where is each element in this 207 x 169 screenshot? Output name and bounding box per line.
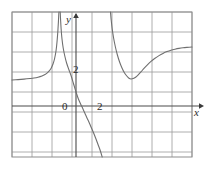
y-axis-label: y: [66, 14, 71, 25]
graph-screenshot: y x 2 0 2: [0, 0, 207, 169]
x-axis-label: x: [194, 107, 199, 118]
x-tick-label-2: 2: [97, 101, 103, 112]
y-tick-label-2: 2: [73, 64, 79, 75]
function-graph-figure: [0, 0, 207, 169]
x-axis-arrow-icon: [199, 103, 204, 109]
plot-background: [12, 12, 192, 157]
x-tick-label-0: 0: [62, 101, 68, 112]
